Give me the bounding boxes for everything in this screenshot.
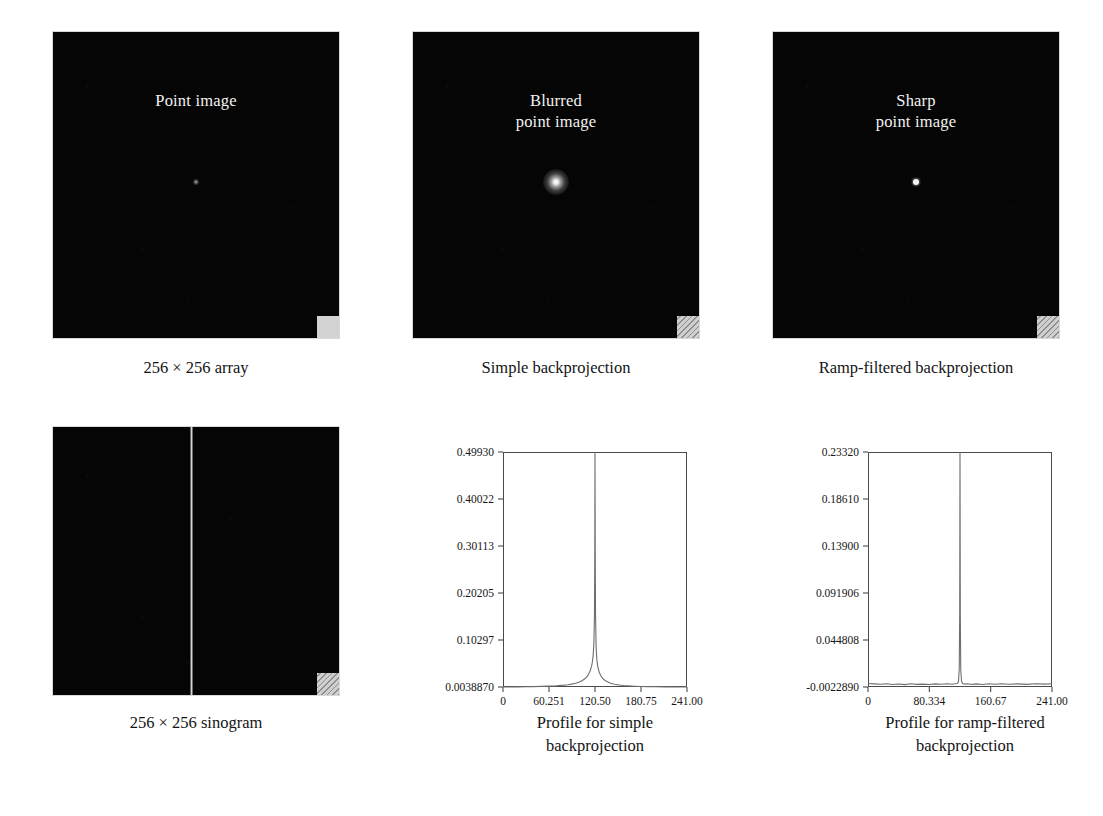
y-tick-label: 0.13900 — [822, 540, 859, 552]
data-line — [868, 452, 1052, 685]
panel-overlay-title-sharp-line2: point image — [773, 111, 1059, 132]
panel-overlay-title-blurred-line2: point image — [413, 111, 699, 132]
x-axis-ticks — [503, 687, 687, 692]
chart-profile-ramp-filtered-backprojection: -0.00228900.0448080.0919060.139000.18610… — [868, 452, 1052, 687]
y-tick-label: 0.044808 — [816, 634, 859, 646]
x-tick-label: 0 — [865, 695, 871, 707]
caption-profile-simple-line2: backprojection — [445, 735, 745, 757]
y-tick-label: 0.23320 — [822, 446, 859, 458]
y-tick-label: 0.30113 — [457, 540, 494, 552]
panel-overlay-title-point-image: Point image — [53, 90, 339, 111]
caption-simple-backprojection: Simple backprojection — [413, 357, 699, 379]
chart-profile-simple-backprojection: 0.00388700.102970.202050.301130.400220.4… — [503, 452, 687, 687]
caption-profile-ramp-line1: Profile for ramp-filtered — [800, 712, 1103, 734]
panel-sinogram — [53, 427, 339, 695]
y-tick-label: 0.0038870 — [445, 681, 494, 693]
point-spot — [193, 178, 200, 185]
x-tick-label: 180.75 — [625, 695, 657, 707]
corner-marker-hatched — [317, 673, 339, 695]
x-tick-label: 241.00 — [671, 695, 703, 707]
y-axis-ticks — [498, 452, 503, 687]
x-tick-label: 120.50 — [579, 695, 611, 707]
panel-overlay-title-sharp-line1: Sharp — [773, 90, 1059, 111]
x-tick-label: 0 — [500, 695, 506, 707]
y-tick-label: 0.20205 — [457, 587, 494, 599]
caption-sinogram: 256 × 256 sinogram — [53, 712, 339, 734]
caption-profile-ramp-line2: backprojection — [800, 735, 1103, 757]
caption-array: 256 × 256 array — [53, 357, 339, 379]
panel-sharp-point-image: Sharp point image — [773, 32, 1059, 338]
x-tick-label: 241.00 — [1036, 695, 1068, 707]
panel-noise-texture — [53, 427, 339, 695]
corner-marker-hatched — [677, 316, 699, 338]
panel-noise-texture — [773, 32, 1059, 338]
data-line — [503, 452, 687, 687]
y-tick-label: 0.49930 — [457, 446, 494, 458]
panel-point-image: Point image — [53, 32, 339, 338]
x-tick-label: 160.67 — [975, 695, 1007, 707]
y-tick-label: 0.10297 — [457, 634, 494, 646]
x-axis-ticks — [868, 687, 1052, 692]
y-tick-label: 0.18610 — [822, 493, 859, 505]
corner-marker-solid — [317, 316, 339, 338]
caption-ramp-filtered-backprojection: Ramp-filtered backprojection — [773, 357, 1059, 379]
y-tick-label: 0.40022 — [457, 493, 494, 505]
panel-blurred-point-image: Blurred point image — [413, 32, 699, 338]
y-axis-ticks — [863, 452, 868, 687]
plot-canvas — [503, 452, 687, 687]
figure-root: Point image Blurred point image Sharp po… — [0, 0, 1103, 816]
panel-overlay-title-blurred-line1: Blurred — [413, 90, 699, 111]
sinogram-line — [190, 427, 193, 695]
plot-canvas — [868, 452, 1052, 687]
corner-marker-hatched — [1037, 316, 1059, 338]
caption-profile-simple-line1: Profile for simple — [445, 712, 745, 734]
y-tick-label: 0.091906 — [816, 587, 859, 599]
sharp-point-spot — [913, 179, 919, 185]
y-tick-label: -0.0022890 — [806, 681, 859, 693]
x-tick-label: 60.251 — [533, 695, 565, 707]
x-tick-label: 80.334 — [914, 695, 946, 707]
blurred-point-spot — [543, 169, 569, 195]
